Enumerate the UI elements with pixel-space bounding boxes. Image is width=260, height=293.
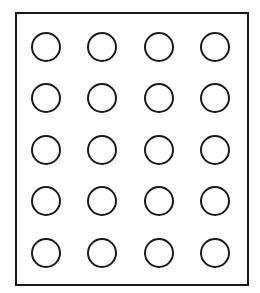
circle-icon <box>145 84 173 112</box>
circle-grid <box>0 0 260 293</box>
circle-icon <box>145 33 173 61</box>
circle-icon <box>201 33 229 61</box>
circle-icon <box>201 187 229 215</box>
circle-icon <box>88 84 116 112</box>
circle-icon <box>32 187 60 215</box>
circle-icon <box>201 239 229 267</box>
circle-icon <box>32 33 60 61</box>
circle-icon <box>88 239 116 267</box>
circle-icon <box>88 33 116 61</box>
circle-icon <box>145 136 173 164</box>
circle-icon <box>145 239 173 267</box>
circle-icon <box>88 187 116 215</box>
circle-icon <box>88 136 116 164</box>
circle-icon <box>32 84 60 112</box>
circle-icon <box>145 187 173 215</box>
circle-icon <box>32 136 60 164</box>
circle-icon <box>201 84 229 112</box>
circle-icon <box>201 136 229 164</box>
circle-icon <box>32 239 60 267</box>
